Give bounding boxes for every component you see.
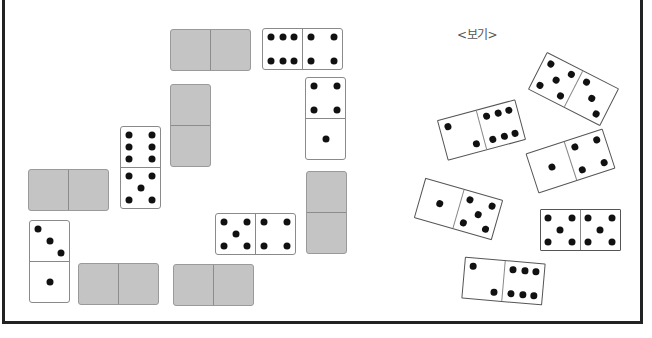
domino-tile[interactable] bbox=[120, 126, 161, 209]
domino-half bbox=[68, 170, 108, 210]
pip-dot bbox=[510, 129, 519, 138]
domino-half bbox=[307, 212, 346, 253]
domino-tile[interactable] bbox=[305, 77, 346, 160]
domino-half bbox=[501, 261, 544, 304]
pip-dot bbox=[577, 165, 586, 174]
pip-dot bbox=[260, 243, 267, 250]
pip-dot bbox=[232, 231, 239, 238]
pip-dot bbox=[125, 144, 132, 151]
pip-dot bbox=[469, 262, 477, 270]
pip-dot bbox=[530, 292, 538, 300]
face-down-domino[interactable] bbox=[170, 84, 211, 167]
face-down-domino[interactable] bbox=[306, 171, 347, 254]
pip-dot bbox=[473, 210, 482, 219]
domino-half bbox=[118, 264, 158, 304]
pip-dot bbox=[585, 215, 592, 222]
pip-dot bbox=[149, 132, 156, 139]
pip-dot bbox=[592, 135, 601, 144]
pip-dot bbox=[566, 70, 575, 79]
pip-dot bbox=[504, 106, 513, 115]
domino-half bbox=[30, 261, 69, 302]
face-down-domino[interactable] bbox=[28, 169, 109, 211]
pip-dot bbox=[149, 173, 156, 180]
pip-dot bbox=[545, 239, 552, 246]
pip-dot bbox=[334, 83, 341, 90]
pip-dot bbox=[34, 226, 41, 233]
example-label: <보기> bbox=[457, 25, 497, 42]
domino-half bbox=[216, 214, 255, 254]
face-down-domino[interactable] bbox=[170, 29, 251, 71]
domino-half bbox=[306, 78, 345, 118]
pip-dot bbox=[260, 219, 267, 226]
pip-dot bbox=[535, 81, 544, 90]
pip-dot bbox=[568, 215, 575, 222]
pip-dot bbox=[570, 143, 579, 152]
face-down-domino[interactable] bbox=[78, 263, 159, 305]
face-down-domino[interactable] bbox=[173, 264, 254, 306]
pip-dot bbox=[518, 291, 526, 299]
pip-dot bbox=[608, 239, 615, 246]
domino-half bbox=[210, 30, 250, 70]
domino-half bbox=[121, 127, 160, 167]
pip-dot bbox=[481, 225, 490, 234]
pip-dot bbox=[125, 197, 132, 204]
pip-dot bbox=[608, 215, 615, 222]
pip-dot bbox=[244, 219, 251, 226]
pip-dot bbox=[472, 139, 481, 148]
pip-dot bbox=[520, 267, 528, 275]
domino-half bbox=[174, 265, 213, 305]
domino-tile[interactable] bbox=[215, 213, 296, 255]
domino-half bbox=[29, 170, 68, 210]
pip-dot bbox=[149, 156, 156, 163]
pip-dot bbox=[220, 243, 227, 250]
pip-dot bbox=[307, 34, 314, 41]
pip-dot bbox=[568, 239, 575, 246]
pip-dot bbox=[331, 58, 338, 65]
pip-dot bbox=[545, 215, 552, 222]
pip-dot bbox=[585, 239, 592, 246]
domino-tile[interactable] bbox=[29, 220, 70, 303]
pip-dot bbox=[586, 93, 595, 102]
example-domino bbox=[461, 257, 545, 306]
domino-half bbox=[30, 221, 69, 261]
pip-dot bbox=[284, 243, 291, 250]
pip-dot bbox=[125, 132, 132, 139]
pip-dot bbox=[322, 136, 329, 143]
pip-dot bbox=[279, 34, 286, 41]
pip-dot bbox=[125, 156, 132, 163]
pip-dot bbox=[506, 290, 514, 298]
pip-dot bbox=[279, 58, 286, 65]
domino-half bbox=[79, 264, 118, 304]
pip-dot bbox=[493, 109, 502, 118]
domino-half bbox=[171, 85, 210, 125]
example-domino bbox=[540, 209, 621, 251]
pip-dot bbox=[291, 58, 298, 65]
pip-dot bbox=[267, 58, 274, 65]
domino-half bbox=[255, 214, 295, 254]
pip-dot bbox=[220, 219, 227, 226]
pip-dot bbox=[291, 34, 298, 41]
domino-half bbox=[171, 125, 210, 166]
pip-dot bbox=[555, 91, 564, 100]
pip-dot bbox=[125, 173, 132, 180]
domino-half bbox=[121, 167, 160, 208]
pip-dot bbox=[557, 227, 564, 234]
pip-dot bbox=[597, 227, 604, 234]
pip-dot bbox=[334, 107, 341, 114]
domino-tile[interactable] bbox=[262, 28, 343, 70]
pip-dot bbox=[267, 34, 274, 41]
pip-dot bbox=[137, 185, 144, 192]
pip-dot bbox=[488, 135, 497, 144]
pip-dot bbox=[545, 59, 554, 68]
pip-dot bbox=[307, 58, 314, 65]
pip-dot bbox=[284, 219, 291, 226]
pip-dot bbox=[499, 132, 508, 141]
domino-half bbox=[307, 172, 346, 212]
domino-half bbox=[263, 29, 302, 69]
pip-dot bbox=[149, 144, 156, 151]
pip-dot bbox=[482, 112, 491, 121]
pip-dot bbox=[310, 107, 317, 114]
pip-dot bbox=[458, 218, 467, 227]
domino-half bbox=[302, 29, 342, 69]
pip-dot bbox=[465, 195, 474, 204]
